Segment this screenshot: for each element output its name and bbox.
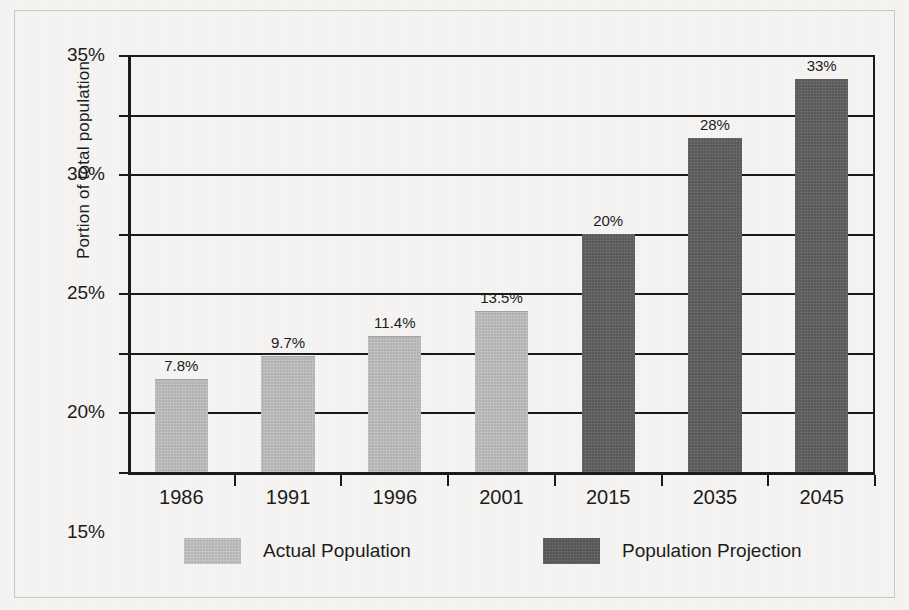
legend-swatch-projection	[543, 538, 600, 564]
x-axis-label-1991: 1991	[266, 486, 311, 509]
x-axis-label-1986: 1986	[159, 486, 204, 509]
x-axis-tick	[661, 475, 663, 486]
bar-1996[interactable]	[368, 336, 421, 472]
legend-label-projection: Population Projection	[622, 540, 802, 562]
bar-value-label-2015: 20%	[593, 212, 623, 229]
bar-value-label-2001: 13.5%	[480, 289, 523, 306]
bar-value-label-1986: 7.8%	[164, 357, 198, 374]
x-axis-label-2001: 2001	[479, 486, 524, 509]
legend-item-projection[interactable]: Population Projection	[543, 536, 802, 566]
y-axis-tick: 15%	[119, 293, 128, 295]
chart-legend: Actual PopulationPopulation Projection	[128, 536, 878, 576]
y-axis-tick-label: 30%	[67, 163, 105, 185]
gridline	[128, 174, 875, 176]
bar-2001[interactable]	[475, 311, 528, 472]
x-axis-tick	[554, 475, 556, 486]
bar-1991[interactable]	[261, 356, 314, 472]
x-axis-tick	[767, 475, 769, 486]
x-axis-tick	[340, 475, 342, 486]
x-axis-tick	[874, 475, 876, 486]
bar-2015[interactable]	[582, 234, 635, 472]
y-axis-tick-label: 15%	[67, 520, 105, 542]
x-axis-label-2035: 2035	[693, 486, 738, 509]
y-axis-tick-label: 20%	[67, 401, 105, 423]
y-axis-tick: 30%	[119, 115, 128, 117]
bar-chart: Portion of total population 0%5%10%15%20…	[0, 0, 909, 610]
gridline	[128, 55, 875, 57]
bar-2035[interactable]	[688, 138, 741, 472]
gridline	[128, 115, 875, 117]
y-axis-tick-label: 25%	[67, 282, 105, 304]
y-axis-tick: 20%	[119, 234, 128, 236]
y-axis-tick: 10%	[119, 353, 128, 355]
bar-1986[interactable]	[155, 379, 208, 472]
plot-area: 0%5%10%15%20%25%30%35% 7.8%9.7%11.4%13.5…	[128, 55, 875, 475]
bar-value-label-1996: 11.4%	[374, 314, 415, 331]
x-axis-label-2015: 2015	[586, 486, 631, 509]
y-axis-tick: 25%	[119, 174, 128, 176]
x-axis-line	[128, 472, 875, 475]
bar-value-label-2035: 28%	[700, 116, 730, 133]
bar-value-label-1991: 9.7%	[271, 334, 305, 351]
y-axis-tick-label: 35%	[67, 44, 105, 66]
figure-page: Portion of total population 0%5%10%15%20…	[0, 0, 909, 610]
legend-swatch-actual	[184, 538, 241, 564]
y-axis-tick: 5%	[119, 412, 128, 414]
legend-label-actual: Actual Population	[263, 540, 411, 562]
legend-item-actual[interactable]: Actual Population	[184, 536, 411, 566]
gridline	[128, 234, 875, 236]
y-axis-tick: 35%	[119, 55, 128, 57]
y-axis-tick: 0%	[119, 472, 128, 474]
bar-value-label-2045: 33%	[807, 57, 837, 74]
x-axis-label-2045: 2045	[799, 486, 844, 509]
x-axis-tick	[447, 475, 449, 486]
bar-2045[interactable]	[795, 79, 848, 472]
x-axis-tick	[234, 475, 236, 486]
x-axis-label-1996: 1996	[373, 486, 418, 509]
